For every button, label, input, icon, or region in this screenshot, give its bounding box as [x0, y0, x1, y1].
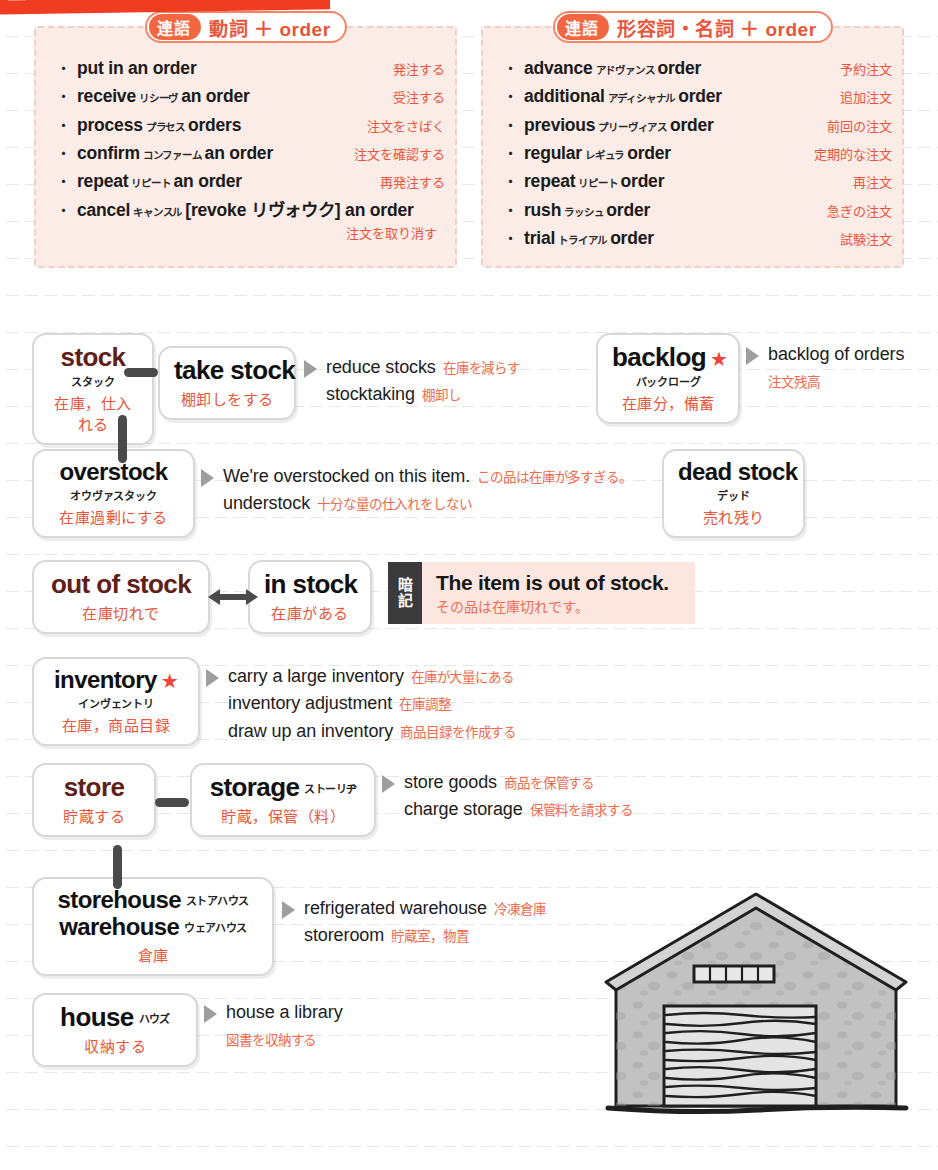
example-line: storeroom貯蔵室，物置: [304, 922, 546, 949]
connector-store-storage: [155, 798, 189, 807]
collocation-phrase: previous: [524, 111, 595, 139]
collocation-gloss: 定期的な注文: [814, 144, 892, 165]
katakana-reading: ストアハウス: [186, 895, 248, 908]
memo-tab-char-1: 暗: [398, 577, 413, 593]
collocation-phrase-tail: order: [610, 224, 654, 252]
japanese-gloss: 貯蔵，保管（料）: [206, 805, 360, 826]
word-box-out-of-stock[interactable]: out of stock 在庫切れで: [32, 560, 210, 634]
connector-stock-overstock: [118, 415, 127, 463]
collocation-gloss: 試験注文: [840, 229, 892, 250]
example-line: stocktaking棚卸し: [326, 381, 520, 408]
example-en: house a library: [226, 1002, 343, 1022]
list-item: ・ put in an order 発注する: [46, 54, 445, 82]
badge-tag-label: 連語: [148, 14, 200, 40]
example-en: refrigerated warehouse: [304, 898, 487, 918]
word-box-overstock[interactable]: overstock オウヴァスタック 在庫過剰にする: [32, 449, 195, 538]
collocation-phrase: confirm: [77, 139, 140, 167]
example-en: draw up an inventory: [228, 721, 393, 741]
example-jp: 棚卸し: [422, 387, 461, 403]
example-line: house a library: [226, 999, 343, 1026]
bullet-icon: ・: [56, 199, 71, 223]
bullet-icon: ・: [503, 85, 518, 109]
badge-title: 動詞 ＋ order: [209, 14, 330, 41]
example-line: 注文残高: [768, 368, 904, 395]
list-item: ・ receive リシーヴ an order 受注する: [46, 82, 445, 110]
example-line: carry a large inventory在庫が大量にある: [228, 663, 516, 690]
word-box-store[interactable]: store 貯蔵する: [32, 763, 156, 837]
japanese-gloss: 在庫，商品目録: [48, 714, 184, 735]
japanese-gloss: 売れ残り: [678, 506, 789, 527]
collocation-phrase-tail: an order: [181, 82, 249, 110]
collocation-gloss: 予約注文: [840, 59, 892, 80]
collocation-phrase: rush: [524, 196, 561, 224]
katakana-reading: インヴェントリ: [48, 695, 184, 711]
collocation-list: ・ put in an order 発注する ・ receive リシーヴ an…: [46, 54, 445, 224]
entry-take-stock: take stock 棚卸しをする reduce stocks在庫を減らす st…: [158, 346, 520, 420]
list-item: ・ advance アドヴァンス order 予約注文: [493, 54, 892, 82]
japanese-gloss: 在庫過剰にする: [48, 506, 179, 527]
word-box-in-stock[interactable]: in stock 在庫がある: [248, 560, 372, 634]
collocation-phrase: additional: [524, 82, 605, 110]
collocation-gloss: 追加注文: [840, 87, 892, 108]
word-box-take-stock[interactable]: take stock 棚卸しをする: [158, 346, 296, 420]
katakana-reading: レギュラ: [585, 147, 624, 164]
list-item: ・ repeat リピート an order 再発注する: [46, 167, 445, 195]
collocation-trailing-gloss: 注文を取り消す: [46, 224, 445, 245]
word-box-storehouse-warehouse[interactable]: storehouseストアハウス warehouseウェアハウス 倉庫: [32, 877, 274, 976]
example-en: carry a large inventory: [228, 666, 404, 686]
collocation-phrase-tail: an order: [205, 139, 273, 167]
katakana-reading: アディシャナル: [608, 90, 676, 107]
example-jp: 商品を保管する: [504, 775, 594, 791]
connector-stock-takestock: [124, 368, 158, 377]
bullet-icon: ・: [503, 114, 518, 138]
example-en: storeroom: [304, 925, 384, 945]
katakana-reading: リシーヴ: [139, 90, 178, 107]
examples-backlog: backlog of orders 注文残高: [746, 333, 904, 396]
collocation-gloss: 再発注する: [380, 172, 445, 193]
word-box-backlog[interactable]: backlog★ バックローグ 在庫分，備蓄: [596, 333, 740, 424]
collocation-phrase: process: [77, 111, 143, 139]
collocation-panel-verb-order: 連語 動詞 ＋ order ・ put in an order 発注する ・ r…: [34, 26, 457, 268]
word-box-dead-stock[interactable]: dead stock デッド 売れ残り: [662, 449, 805, 538]
katakana-reading: リピート: [578, 175, 617, 192]
bullet-icon: ・: [503, 227, 518, 251]
example-jp: 在庫を減らす: [443, 360, 520, 376]
page-root: 連語 動詞 ＋ order ・ put in an order 発注する ・ r…: [0, 0, 938, 1170]
example-en: backlog of orders: [768, 344, 904, 364]
headword: stock: [48, 343, 138, 372]
word-box-inventory[interactable]: inventory★ インヴェントリ 在庫，商品目録: [32, 657, 200, 746]
bullet-icon: ・: [56, 142, 71, 166]
triangle-marker-icon: [746, 347, 759, 365]
headword-warehouse: warehouseウェアハウス: [48, 914, 258, 941]
katakana-reading: アドヴァンス: [596, 62, 655, 79]
headword: dead stock: [678, 459, 789, 486]
word-box-stock[interactable]: stock スタック 在庫，仕入れる: [32, 333, 154, 445]
entry-inventory: inventory★ インヴェントリ 在庫，商品目録 carry a large…: [32, 657, 516, 746]
collocation-phrase: repeat: [524, 167, 575, 195]
bullet-icon: ・: [56, 57, 71, 81]
examples-overstock: We're overstocked on this item.この品は在庫が多す…: [201, 449, 632, 518]
example-en: We're overstocked on this item.: [223, 466, 470, 486]
word-box-house[interactable]: houseハウズ 収納する: [32, 993, 198, 1067]
word-box-storage[interactable]: storageストーリヂ 貯蔵，保管（料）: [190, 763, 376, 837]
japanese-gloss: 倉庫: [48, 944, 258, 965]
entry-backlog: backlog★ バックローグ 在庫分，備蓄 backlog of orders…: [596, 333, 904, 424]
memo-body: The item is out of stock. その品は在庫切れです。: [422, 562, 695, 624]
entry-dead-stock: dead stock デッド 売れ残り: [662, 449, 805, 538]
collocation-list: ・ advance アドヴァンス order 予約注文 ・ additional…: [493, 54, 892, 252]
example-line: inventory adjustment在庫調整: [228, 690, 516, 717]
bullet-icon: ・: [56, 170, 71, 194]
entry-store: store 貯蔵する: [32, 763, 156, 837]
example-jp: 貯蔵室，物置: [391, 928, 468, 944]
collocation-phrase-tail: order: [678, 82, 722, 110]
example-en: reduce stocks: [326, 357, 436, 377]
example-jp: 冷凍倉庫: [494, 901, 546, 917]
collocation-gloss: 受注する: [393, 87, 445, 108]
collocation-badge: 連語 動詞 ＋ order: [144, 11, 346, 43]
collocation-gloss: 注文をさばく: [367, 116, 445, 137]
entry-storage: storageストーリヂ 貯蔵，保管（料） store goods商品を保管する…: [190, 763, 633, 837]
list-item: ・ repeat リピート order 再注文: [493, 167, 892, 195]
collocation-phrase-tail: order: [621, 167, 665, 195]
headword-text: storehouse: [58, 886, 181, 913]
headword: out of stock: [48, 570, 194, 599]
